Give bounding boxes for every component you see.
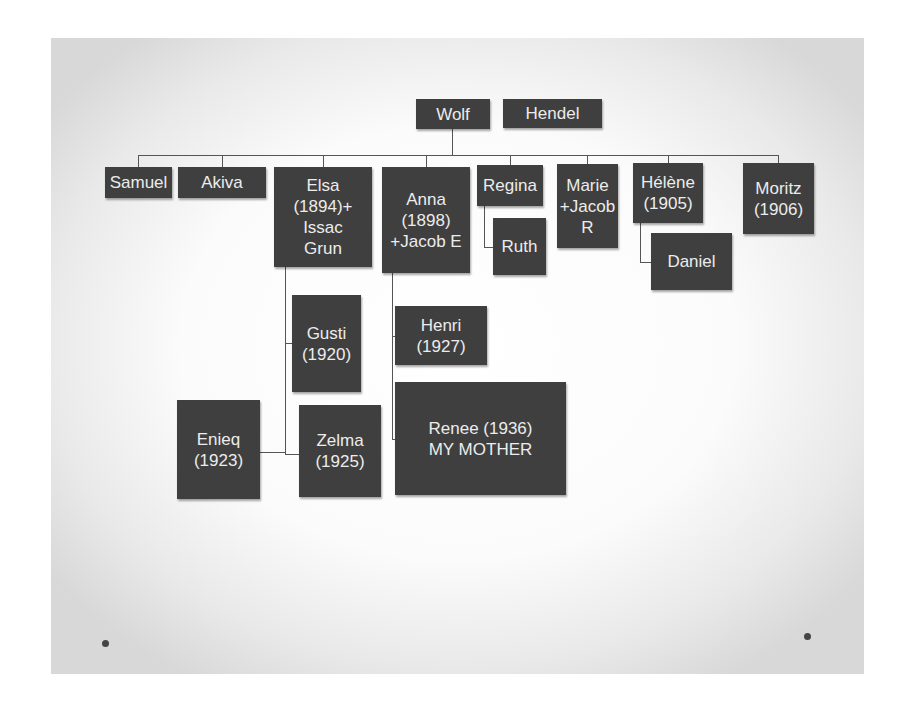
connector-wolf-down <box>452 129 453 155</box>
connector-ruth <box>484 247 493 248</box>
node-gusti: Gusti (1920) <box>292 295 361 392</box>
connector-samuel <box>138 155 139 167</box>
connector-marie <box>587 155 588 164</box>
connector-anna-down <box>392 273 393 440</box>
node-akiva: Akiva <box>178 167 266 198</box>
connector-gusti <box>285 343 292 344</box>
connector-enieq-zelma <box>260 452 285 453</box>
node-hendel: Hendel <box>503 99 602 128</box>
node-helene: Hélène (1905) <box>633 163 703 223</box>
node-daniel: Daniel <box>651 233 732 290</box>
connector-helene-down <box>640 223 641 262</box>
node-samuel: Samuel <box>105 167 172 198</box>
connector-elsa-down <box>285 267 286 454</box>
connector-akiva <box>222 155 223 167</box>
node-moritz: Moritz (1906) <box>743 163 814 234</box>
node-enieq: Enieq (1923) <box>177 400 260 499</box>
connector-helene <box>668 155 669 163</box>
node-marie: Marie +Jacob R <box>557 164 618 248</box>
node-henri: Henri (1927) <box>395 306 487 365</box>
node-elsa: Elsa (1894)+ Issac Grun <box>274 167 372 267</box>
connector-anna <box>426 155 427 167</box>
connector-regina-down <box>484 206 485 247</box>
bullet-dot-right <box>804 633 811 640</box>
node-anna: Anna (1898) +Jacob E <box>382 167 470 273</box>
connector-moritz <box>778 155 779 163</box>
connector-zelma <box>285 454 299 455</box>
node-zelma: Zelma (1925) <box>299 405 381 497</box>
node-renee: Renee (1936) MY MOTHER <box>395 382 566 495</box>
bullet-dot-left <box>102 640 109 647</box>
node-regina: Regina <box>477 165 543 206</box>
connector-elsa <box>323 155 324 167</box>
node-wolf: Wolf <box>416 99 490 129</box>
node-ruth: Ruth <box>493 218 546 275</box>
connector-regina <box>510 155 511 165</box>
connector-children-bar <box>138 155 779 156</box>
connector-daniel <box>640 262 651 263</box>
